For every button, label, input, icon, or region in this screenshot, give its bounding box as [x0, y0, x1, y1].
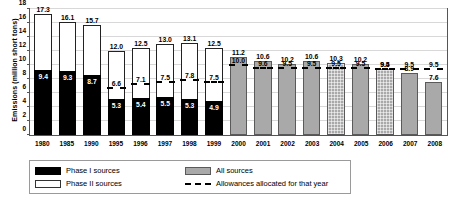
phase1-value-label: 8.7 — [87, 78, 96, 86]
legend-label-phase1: Phase I sources — [66, 166, 120, 175]
y-tick-label: 8 — [22, 70, 26, 77]
bar-total-label: 12.0 — [110, 43, 123, 51]
allowance-value-label: 10.0 — [232, 57, 245, 65]
phase1-segment: 5.3 — [181, 99, 199, 135]
bar-slot: 10.29.5 — [275, 9, 299, 135]
x-axis-label: 1998 — [177, 138, 202, 150]
x-axis-label: 2001 — [251, 138, 276, 150]
phase1-value-label: 9.4 — [38, 73, 47, 81]
bar-slot: 12.05.36.6 — [104, 9, 128, 135]
phase1-value-label: 5.3 — [185, 102, 194, 110]
all-sources-bar: 10.29.5 — [352, 64, 370, 135]
phase2-swatch-icon — [35, 180, 61, 188]
phase1-value-label: 5.3 — [112, 102, 121, 110]
bar-total-label: 16.1 — [61, 14, 74, 22]
bar-slot: 16.19.3 — [55, 9, 79, 135]
all-sources-bar: 10.69.6 — [254, 61, 272, 135]
phase1-segment: 8.7 — [83, 75, 101, 135]
stacked-bar: 13.15.37.8 — [181, 43, 199, 135]
bar-total-label: 15.7 — [85, 17, 98, 25]
x-axis-label: 2005 — [349, 138, 374, 150]
phase1-segment: 5.5 — [156, 97, 174, 135]
allowance-value-label: 9.5 — [405, 61, 414, 69]
bar-slot: 17.39.4 — [31, 9, 55, 135]
allowance-value-label: 9.5 — [307, 60, 316, 68]
allowance-value-label: 7.5 — [161, 74, 170, 82]
legend-label-phase2: Phase II sources — [66, 179, 122, 188]
allowance-value-label: 6.6 — [112, 80, 121, 88]
x-axis-label: 2007 — [398, 138, 423, 150]
bar-slot: 15.78.7 — [80, 9, 104, 135]
all-sources-bar: 11.210.0 — [230, 57, 248, 135]
phase1-segment: 5.3 — [108, 99, 126, 135]
y-tick-label: 14 — [19, 28, 26, 35]
allowance-value-label: 7.5 — [209, 74, 218, 82]
bar-total-label: 13.0 — [159, 36, 172, 44]
allowance-value-label: 9.5 — [283, 60, 292, 68]
bar-slot: 10.69.6 — [251, 9, 275, 135]
bar-slot: 10.39.5 — [324, 9, 348, 135]
phase1-value-label: 5.4 — [136, 101, 145, 109]
y-tick-label: 2 — [22, 112, 26, 119]
bar-slot: 7.69.5 — [422, 9, 446, 135]
y-tick-label: 6 — [22, 84, 26, 91]
legend-item-all: All sources — [185, 166, 345, 175]
all-sources-bar: 8.99.5 — [401, 73, 419, 135]
phase1-segment: 9.3 — [59, 71, 77, 135]
bar-slot: 10.69.5 — [299, 9, 323, 135]
bar-slot: 13.15.37.8 — [177, 9, 201, 135]
bar-total-label: 7.6 — [429, 74, 438, 82]
phase1-segment: 4.9 — [205, 101, 223, 135]
x-axis-label: 1995 — [104, 138, 129, 150]
x-axis-label: 1997 — [153, 138, 178, 150]
bar-total-label: 17.3 — [37, 6, 50, 14]
allowance-value-label: 9.5 — [331, 60, 340, 68]
x-axis-label: 1985 — [55, 138, 80, 150]
y-tick-label: 18 — [19, 0, 26, 6]
bar-slot: 12.54.97.5 — [202, 9, 226, 135]
stacked-bar: 12.05.36.6 — [108, 51, 126, 135]
emissions-bar-chart: Emissions (million short tons) 024681012… — [0, 0, 456, 203]
plot-area: 024681012141618 17.39.416.19.315.78.712.… — [29, 8, 448, 136]
all-sources-bar: 7.69.5 — [425, 82, 443, 135]
allowance-value-label: 9.5 — [356, 60, 365, 68]
x-axis-label: 2002 — [275, 138, 300, 150]
bar-slot: 10.29.5 — [348, 9, 372, 135]
chart-legend: Phase I sources All sources Phase II sou… — [29, 160, 351, 194]
legend-item-allowances: Allowances allocated for that year — [185, 179, 345, 188]
y-tick-label: 12 — [19, 42, 26, 49]
all-sources-bar: 10.39.5 — [327, 63, 345, 135]
all-sources-swatch-icon — [185, 167, 211, 175]
bar-total-label: 13.1 — [183, 35, 196, 43]
legend-label-all: All sources — [216, 166, 253, 175]
bar-slot: 8.99.5 — [397, 9, 421, 135]
x-axis-labels: 1980198519901995199619971998199920002001… — [29, 138, 448, 150]
x-axis-label: 2003 — [300, 138, 325, 150]
x-axis-label: 2000 — [226, 138, 251, 150]
x-axis-label: 1990 — [79, 138, 104, 150]
stacked-bar: 15.78.7 — [83, 25, 101, 135]
legend-label-allowances: Allowances allocated for that year — [216, 179, 328, 188]
x-axis-label: 2004 — [324, 138, 349, 150]
bar-total-label: 12.5 — [134, 40, 147, 48]
x-axis-label: 1996 — [128, 138, 153, 150]
bar-slot: 13.05.57.5 — [153, 9, 177, 135]
bar-slot: 11.210.0 — [226, 9, 250, 135]
allowances-dashed-line-icon — [185, 183, 211, 185]
y-tick-label: 0 — [22, 126, 26, 133]
stacked-bar: 16.19.3 — [59, 22, 77, 135]
x-axis-label: 2006 — [373, 138, 398, 150]
allowance-value-label: 9.4 — [380, 61, 389, 69]
phase1-value-label: 5.5 — [161, 100, 170, 108]
bar-slot: 12.55.47.1 — [129, 9, 153, 135]
legend-item-phase1: Phase I sources — [35, 166, 185, 175]
y-tick-label: 16 — [19, 14, 26, 21]
bar-total-label: 11.2 — [232, 49, 245, 57]
allowance-value-label: 7.8 — [185, 72, 194, 80]
y-axis-title: Emissions (million short tons) — [9, 0, 21, 145]
all-sources-bar: 10.29.5 — [278, 64, 296, 135]
phase1-value-label: 9.3 — [63, 74, 72, 82]
stacked-bar: 12.54.97.5 — [205, 48, 223, 136]
phase1-segment: 9.4 — [34, 70, 52, 135]
allowance-value-label: 9.5 — [429, 61, 438, 69]
